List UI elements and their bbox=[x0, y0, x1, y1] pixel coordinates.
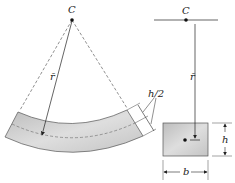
radial-line-right bbox=[72, 20, 127, 108]
center-label: C bbox=[68, 4, 76, 15]
curved-beam-diagram: C r̄ h/2 C r̄ h b bbox=[0, 0, 235, 183]
leader-line bbox=[143, 98, 154, 112]
extension-line bbox=[135, 116, 148, 123]
curved-beam-figure: C r̄ h/2 bbox=[5, 4, 164, 152]
leader-line bbox=[151, 98, 156, 124]
radius-label: r̄ bbox=[50, 71, 56, 82]
curved-beam-band bbox=[5, 110, 143, 152]
half-thickness-dimension bbox=[138, 105, 154, 131]
extension-line bbox=[127, 103, 140, 110]
half-thickness-label: h/2 bbox=[148, 88, 164, 99]
centroid-dot bbox=[183, 138, 187, 142]
height-label: h bbox=[222, 134, 228, 145]
center-label: C bbox=[182, 5, 190, 16]
radius-arrow bbox=[42, 21, 72, 135]
center-point bbox=[184, 18, 188, 22]
width-label: b bbox=[183, 166, 189, 177]
radial-line-left bbox=[20, 20, 72, 110]
center-point bbox=[70, 18, 74, 22]
cross-section-figure: C r̄ h b bbox=[154, 5, 232, 180]
extension-line bbox=[143, 129, 156, 136]
